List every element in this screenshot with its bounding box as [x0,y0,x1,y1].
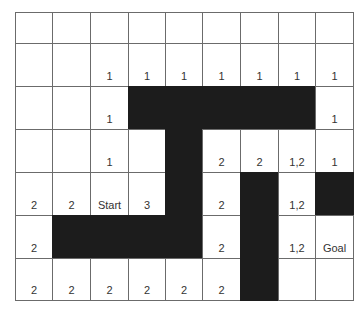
grid-cell: 2 [202,172,241,216]
cell-label: 2 [203,199,240,211]
cell-label: 2 [203,242,240,254]
start-cell: Start [90,172,129,216]
grid-cell: 1 [128,43,166,87]
cell-label: 2 [91,284,128,296]
cell-label: 2 [166,284,202,296]
grid-cell: 2 [165,258,203,301]
cell-label: 2 [53,284,90,296]
cell-label: 1 [316,70,353,82]
grid-cell [15,129,53,173]
wall-cell [278,86,316,130]
grid-cell: 1 [315,86,354,130]
cell-label: 2 [16,199,52,211]
wall-cell [165,129,203,173]
goal-cell: Goal [315,215,354,259]
grid-cell: 2 [128,258,166,301]
grid-cell: 2 [202,215,241,259]
wall-cell [90,215,129,259]
grid-cell [52,43,91,87]
grid-cell: 1,2 [278,129,316,173]
grid-cell [315,258,354,301]
grid-cell: 1 [278,43,316,87]
cell-label: 1 [316,156,353,168]
grid-cell [315,12,354,44]
grid-cell [278,258,316,301]
grid-cell: 1 [90,86,129,130]
grid-cell [128,129,166,173]
wall-cell [128,86,166,130]
grid-cell [90,12,129,44]
grid-cell [15,12,53,44]
cell-label: 1 [91,70,128,82]
grid-cell [278,12,316,44]
cell-label: 2 [203,156,240,168]
cell-label: 1,2 [279,199,315,211]
cell-label: 2 [241,156,278,168]
grid-cell [15,43,53,87]
grid-cell: 3 [128,172,166,216]
cell-label: 2 [16,284,52,296]
cell-label: 1 [316,113,353,125]
grid-cell [52,12,91,44]
cell-label: 1 [91,156,128,168]
wall-cell [165,86,203,130]
grid-cell: 2 [15,258,53,301]
grid-cell: 1 [202,43,241,87]
wall-cell [240,258,279,301]
cell-label: 1,2 [279,242,315,254]
wall-cell [52,215,91,259]
cell-label: 1 [279,70,315,82]
cell-label: 2 [16,242,52,254]
wall-cell [202,86,241,130]
wall-cell [165,215,203,259]
grid-cell [128,12,166,44]
grid-cell [52,129,91,173]
grid-cell: 1 [90,43,129,87]
wall-cell [240,172,279,216]
cell-label: 3 [129,199,165,211]
grid-cell: 2 [202,258,241,301]
grid-cell [52,86,91,130]
grid-cell: 1 [240,43,279,87]
wall-cell [165,172,203,216]
grid-cell: 2 [202,129,241,173]
cell-label: 1 [91,113,128,125]
wall-cell [240,215,279,259]
cell-label: 2 [53,199,90,211]
cell-label: 1 [203,70,240,82]
grid-cell: 2 [52,172,91,216]
grid-cell: 1 [165,43,203,87]
cell-label: 1,2 [279,156,315,168]
cell-label: 1 [166,70,202,82]
grid-cell: 2 [52,258,91,301]
grid-cell: 2 [90,258,129,301]
cell-label: 1 [241,70,278,82]
grid-cell [202,12,241,44]
cell-label: 1 [129,70,165,82]
cell-label: 2 [129,284,165,296]
grid-cell: 1,2 [278,172,316,216]
cell-label: Start [91,199,128,211]
grid-cell: 1,2 [278,215,316,259]
grid-cell: 2 [15,215,53,259]
grid-cell: 2 [15,172,53,216]
wall-cell [315,172,354,216]
grid-cell [165,12,203,44]
grid-cell: 2 [240,129,279,173]
grid-cell: 1 [90,129,129,173]
cell-label: 2 [203,284,240,296]
grid-cell: 1 [315,43,354,87]
grid-cell [240,12,279,44]
grid-cell [15,86,53,130]
wall-cell [128,215,166,259]
wall-cell [240,86,279,130]
cell-label: Goal [316,242,353,254]
grid-cell: 1 [315,129,354,173]
